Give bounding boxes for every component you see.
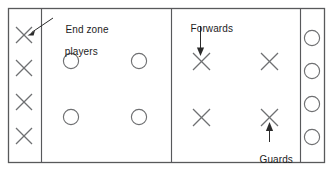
end-zone-label-line2: players — [54, 46, 109, 57]
annotation-forwards: Forwards — [179, 12, 233, 45]
forwards-label: Forwards — [191, 23, 233, 34]
field-diagram: End zone players Forwards Guards — [0, 0, 333, 177]
annotation-guards: Guards — [248, 143, 293, 176]
guards-label: Guards — [260, 154, 293, 165]
annotation-end-zone-players: End zone players — [54, 13, 109, 79]
end-zone-label-line1: End zone — [66, 24, 109, 35]
